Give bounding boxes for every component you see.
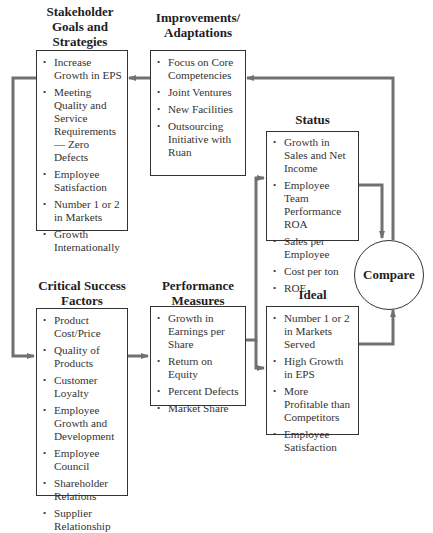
compare-label: Compare bbox=[363, 267, 415, 283]
list-item: Number 1 or 2 in Markets bbox=[43, 198, 123, 224]
improvements-list: Focus on Core Competencies Joint Venture… bbox=[157, 56, 241, 159]
critical-box: Product Cost/Price Quality of Products C… bbox=[36, 308, 128, 496]
list-item: Return on Equity bbox=[157, 355, 241, 381]
list-item: Shareholder Relations bbox=[43, 477, 123, 503]
ideal-box: Number 1 or 2 in Markets Served High Gro… bbox=[266, 306, 359, 435]
improvements-title: Improvements/ Adaptations bbox=[143, 10, 253, 40]
stakeholder-title: Stakeholder Goals and Strategies bbox=[28, 4, 132, 49]
list-item: Sales per Employee bbox=[273, 235, 354, 261]
list-item: Employee Growth and Development bbox=[43, 404, 123, 443]
edge-ideal-to-compare bbox=[359, 310, 393, 344]
list-item: Increase Growth in EPS bbox=[43, 56, 123, 82]
list-item: Customer Loyalty bbox=[43, 374, 123, 400]
stakeholder-list: Increase Growth in EPS Meeting Quality a… bbox=[43, 56, 123, 254]
status-title: Status bbox=[266, 112, 359, 127]
list-item: Product Cost/Price bbox=[43, 314, 123, 340]
performance-title: Performance Measures bbox=[146, 278, 250, 308]
list-item: Growth in Earnings per Share bbox=[157, 312, 241, 351]
performance-box: Growth in Earnings per Share Return on E… bbox=[150, 306, 246, 406]
list-item: Number 1 or 2 in Markets Served bbox=[273, 312, 354, 351]
status-list: Growth in Sales and Net Income Employee … bbox=[273, 136, 354, 295]
ideal-title: Ideal bbox=[266, 287, 359, 302]
ideal-list: Number 1 or 2 in Markets Served High Gro… bbox=[273, 312, 354, 454]
list-item: Employee Team Performance ROA bbox=[273, 179, 354, 231]
performance-list: Growth in Earnings per Share Return on E… bbox=[157, 312, 241, 415]
edge-performance-to-status bbox=[246, 178, 264, 340]
edge-status-to-compare bbox=[359, 185, 382, 238]
list-item: Meeting Quality and Service Requirements… bbox=[43, 86, 123, 164]
list-item: High Growth in EPS bbox=[273, 355, 354, 381]
list-item: Market Share bbox=[157, 402, 241, 415]
improvements-box: Focus on Core Competencies Joint Venture… bbox=[150, 50, 246, 176]
stakeholder-box: Increase Growth in EPS Meeting Quality a… bbox=[36, 50, 128, 231]
list-item: Supplier Relationship bbox=[43, 507, 123, 533]
critical-list: Product Cost/Price Quality of Products C… bbox=[43, 314, 123, 533]
list-item: Quality of Products bbox=[43, 344, 123, 370]
list-item: Growth Internationally bbox=[43, 228, 123, 254]
status-box: Growth in Sales and Net Income Employee … bbox=[266, 131, 359, 241]
critical-title: Critical Success Factors bbox=[22, 278, 142, 308]
compare-node: Compare bbox=[354, 240, 424, 310]
list-item: Outsourcing Initiative with Ruan bbox=[157, 120, 241, 159]
list-item: Joint Ventures bbox=[157, 86, 241, 99]
list-item: New Facilities bbox=[157, 103, 241, 116]
list-item: Cost per ton bbox=[273, 265, 354, 278]
list-item: More Profitable than Competitors bbox=[273, 385, 354, 424]
edge-stakeholder-to-critical bbox=[13, 78, 36, 356]
list-item: Employee Satisfaction bbox=[273, 428, 354, 454]
list-item: Percent Defects bbox=[157, 385, 241, 398]
edge-performance-to-ideal bbox=[256, 340, 264, 368]
list-item: Employee Satisfaction bbox=[43, 168, 123, 194]
list-item: Focus on Core Competencies bbox=[157, 56, 241, 82]
list-item: Growth in Sales and Net Income bbox=[273, 136, 354, 175]
list-item: Employee Council bbox=[43, 447, 123, 473]
